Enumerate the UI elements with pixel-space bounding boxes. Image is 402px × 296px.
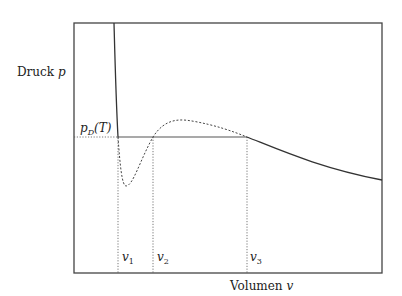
v1-sub: 1 (129, 257, 134, 266)
v3-label: v3 (250, 250, 262, 266)
y-axis-var: p (58, 65, 66, 79)
v2-label: v2 (157, 250, 169, 266)
v2-sub: 2 (164, 257, 169, 266)
v3-base: v (250, 250, 257, 264)
x-axis-var: v (286, 279, 293, 293)
pd-arg: (T) (94, 121, 111, 135)
y-axis-text: Druck (17, 65, 54, 79)
plot-frame (74, 23, 382, 273)
pd-base: p (80, 121, 88, 135)
v2-base: v (157, 250, 164, 264)
pv-diagram (0, 0, 402, 296)
x-axis-text: Volumen (230, 279, 283, 293)
pressure-level-label: pD(T) (80, 121, 111, 137)
isotherm-liquid-branch (114, 23, 118, 137)
vdw-loop-dashed (118, 120, 247, 186)
v1-label: v1 (122, 250, 134, 266)
y-axis-label: Druck p (17, 65, 66, 79)
v3-sub: 3 (257, 257, 262, 266)
isotherm-gas-branch (247, 137, 382, 180)
x-axis-label: Volumen v (230, 279, 293, 293)
v1-base: v (122, 250, 129, 264)
